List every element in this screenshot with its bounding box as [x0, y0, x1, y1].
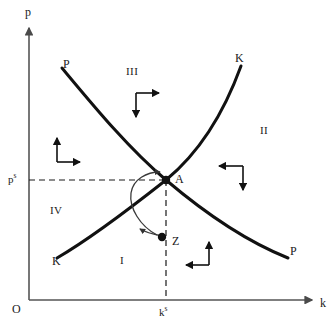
region-i-arrows	[186, 242, 209, 265]
point-z-marker	[158, 233, 166, 241]
origin-label: O	[12, 303, 21, 315]
phase-diagram-figure: p k O ps ks P P K K III II IV I A Z	[0, 0, 336, 330]
region-ii-arrows	[219, 166, 243, 190]
region-iii-label: III	[126, 66, 138, 77]
region-iii-arrows	[136, 93, 159, 117]
pp-curve-label-lower-right: P	[290, 245, 297, 257]
region-iv-label: IV	[50, 205, 62, 216]
reference-lines	[29, 180, 166, 300]
x-axis-tick-label-ks: ks	[159, 305, 167, 318]
axis-group	[29, 28, 312, 300]
x-tick-superscript: s	[165, 304, 168, 313]
region-i-label: I	[120, 255, 124, 266]
pp-curve-label-upper-left: P	[63, 58, 70, 70]
pp-curve	[62, 68, 288, 258]
region-iv-arrows	[57, 138, 80, 162]
diagram-canvas	[0, 0, 336, 330]
kk-curve-label-upper-right: K	[235, 52, 244, 64]
kk-curve-label-lower-left: K	[52, 255, 61, 267]
x-axis-label: k	[320, 297, 326, 309]
point-a-marker	[162, 176, 170, 184]
point-z-label: Z	[172, 235, 179, 247]
y-axis-label: p	[25, 6, 31, 18]
y-axis-tick-label-ps: ps	[8, 172, 16, 185]
y-tick-superscript: s	[14, 171, 17, 180]
point-a-label: A	[175, 173, 184, 185]
region-ii-label: II	[260, 125, 268, 136]
